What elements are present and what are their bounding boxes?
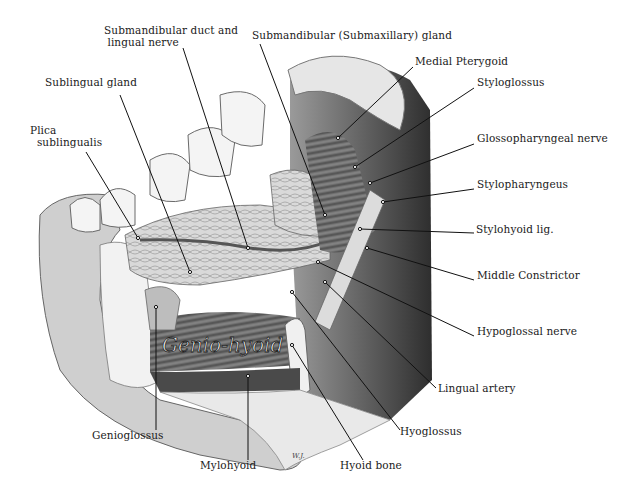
leader-dot-stylopharyngeus — [381, 200, 384, 203]
leader-dot-stylohoid-lig — [358, 227, 361, 230]
label-plica-sublingualis: Plica sublingualis — [30, 124, 102, 148]
label-sublingual-gland: Sublingual gland — [45, 76, 137, 88]
label-submandibular-duct-lingual-nerve: Submandibular duct and lingual nerve — [104, 24, 238, 48]
label-hyoglossus: Hyoglossus — [400, 425, 462, 437]
label-styloglossus: Styloglossus — [477, 76, 545, 88]
mylohyoid-muscle — [150, 368, 300, 392]
leader-dot-medial-pterygoid — [336, 136, 339, 139]
label-lingual-artery: Lingual artery — [438, 382, 516, 394]
leader-dot-submandibular-gland — [323, 213, 326, 216]
leader-dot-plica-sublingualis — [136, 236, 139, 239]
illustration: Genio-hyoid W.J. — [0, 0, 624, 498]
genioglossus-muscle — [145, 287, 180, 330]
leader-dot-sublingual-gland — [188, 270, 191, 273]
artist-signature: W.J. — [292, 452, 305, 460]
leader-dot-glossopharyngeal-nerve — [368, 181, 371, 184]
label-stylohoid-lig: Stylohyoid lig. — [476, 223, 554, 235]
leader-dot-submandibular-duct-lingual-nerve — [246, 246, 249, 249]
leader-dot-styloglossus — [353, 165, 356, 168]
anatomical-figure: Genio-hyoid W.J. Submandibular duct and … — [0, 0, 624, 498]
label-middle-constrictor: Middle Constrictor — [477, 269, 580, 281]
leader-dot-hyoglossus — [290, 290, 293, 293]
leader-dot-hyoid-bone — [290, 343, 293, 346]
geniohyoid-painted-label: Genio-hyoid — [162, 333, 283, 357]
leader-dot-middle-constrictor — [365, 246, 368, 249]
leader-dot-mylohyoid — [246, 374, 249, 377]
leader-dot-hypoglossal-nerve — [316, 260, 319, 263]
label-submandibular-gland: Submandibular (Submaxillary) gland — [252, 29, 452, 41]
label-mylohyoid: Mylohyoid — [200, 459, 256, 471]
label-genioglossus: Genioglossus — [92, 429, 164, 441]
leader-dot-lingual-artery — [323, 280, 326, 283]
label-hyoid-bone: Hyoid bone — [340, 459, 402, 471]
leader-dot-genioglossus — [154, 305, 157, 308]
label-stylopharyngeus: Stylopharyngeus — [477, 178, 568, 190]
label-glossopharyngeal-nerve: Glossopharyngeal nerve — [477, 132, 608, 144]
label-hypoglossal-nerve: Hypoglossal nerve — [477, 325, 577, 337]
label-medial-pterygoid: Medial Pterygoid — [415, 55, 508, 67]
